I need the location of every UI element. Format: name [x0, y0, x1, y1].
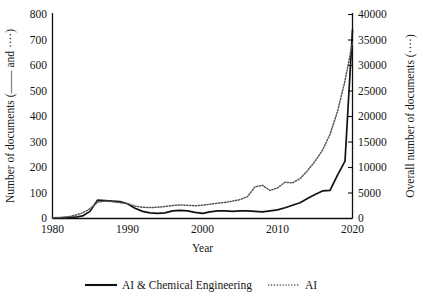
- series-line-ai-chemical-engineering: [53, 30, 353, 218]
- x-axis-title: Year: [192, 242, 213, 254]
- left-tick-label: 400: [30, 110, 48, 122]
- legend-label-ai-chemical-engineering: AI & Chemical Engineering: [122, 279, 252, 292]
- right-tick-label: 30000: [358, 59, 387, 71]
- x-tick-label: 2020: [341, 223, 364, 235]
- left-tick-label: 500: [30, 85, 48, 97]
- x-tick-label: 2010: [266, 223, 289, 235]
- right-tick-label: 10000: [358, 161, 387, 173]
- left-tick-label: 800: [30, 8, 48, 20]
- left-axis-title: Number of documents (—— and ····): [4, 29, 17, 203]
- left-tick-labels: 800 700 600 500 400 300 200 100 0: [30, 8, 48, 224]
- x-tick-labels: 1980 1990 2000 2010 2020: [41, 223, 364, 235]
- left-tick-label: 600: [30, 59, 48, 71]
- right-tick-label: 20000: [358, 110, 387, 122]
- right-tick-label: 25000: [358, 85, 387, 97]
- chart-figure: 800 700 600 500 400 300 200 100 0 40000 …: [0, 0, 423, 300]
- series-line-ai: [53, 43, 353, 218]
- right-tick-label: 35000: [358, 34, 387, 46]
- x-tick-label: 1980: [41, 223, 64, 235]
- left-tick-label: 700: [30, 34, 48, 46]
- chart-legend: AI & Chemical Engineering AI: [85, 279, 317, 292]
- right-tick-label: 40000: [358, 8, 387, 20]
- series-group: [53, 30, 353, 218]
- right-tick-label: 5000: [358, 187, 381, 199]
- legend-label-ai: AI: [305, 279, 317, 291]
- right-axis-title: Overall number of documents (····): [404, 34, 417, 198]
- x-tick-label: 1990: [116, 223, 139, 235]
- x-tick-label: 2000: [191, 223, 214, 235]
- right-tick-labels: 40000 35000 30000 25000 20000 15000 1000…: [358, 8, 387, 224]
- right-tick-label: 15000: [358, 136, 387, 148]
- line-chart: 800 700 600 500 400 300 200 100 0 40000 …: [0, 0, 423, 300]
- left-tick-label: 200: [30, 161, 48, 173]
- left-tick-label: 100: [30, 187, 48, 199]
- left-tick-label: 300: [30, 136, 48, 148]
